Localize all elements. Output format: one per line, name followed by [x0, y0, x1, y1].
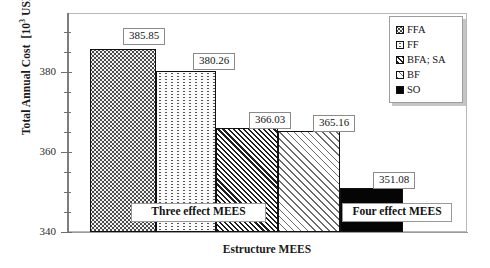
y-tick-minor-370: [64, 112, 71, 113]
legend-label-ffa: FFA: [407, 24, 425, 35]
legend-label-so: SO: [407, 84, 420, 95]
y-axis-title-text: Total Annual Cost: [20, 44, 32, 135]
x-axis-title: Estructure MEES: [67, 243, 467, 255]
y-axis-line: [67, 13, 69, 233]
y-tick-minor-365: [64, 132, 71, 133]
value-label-ff: 380.26: [193, 53, 235, 70]
y-axis-unit-exponent: 3: [18, 19, 27, 23]
y-tick-major-380: [61, 72, 72, 73]
legend-swatch-ff-icon: [396, 41, 404, 49]
legend-label-ff: FF: [407, 39, 419, 50]
y-tick-minor-385: [64, 52, 71, 53]
y-tick-label-340: 340: [14, 225, 56, 237]
legend: FFA FF BFA; SA BF SO: [389, 16, 463, 103]
chart-canvas: Total Annual Cost [103 USD] 380 360 340 …: [0, 0, 490, 268]
y-tick-minor-375: [64, 92, 71, 93]
y-tick-label-360: 360: [14, 145, 56, 157]
legend-item-bfa-sa[interactable]: BFA; SA: [396, 52, 458, 67]
y-tick-major-360: [61, 152, 72, 153]
bar-bf[interactable]: [278, 131, 340, 232]
annotation-three-effect-mees: Three effect MEES: [131, 203, 266, 222]
value-label-bfa-sa: 366.03: [249, 112, 291, 129]
y-tick-major-340: [61, 232, 72, 233]
y-tick-minor-390: [64, 32, 71, 33]
annotation-four-effect-mees: Four effect MEES: [342, 203, 452, 222]
legend-item-ff[interactable]: FF: [396, 37, 458, 52]
legend-item-so[interactable]: SO: [396, 82, 458, 97]
y-tick-minor-345: [64, 212, 71, 213]
y-axis-unit-prefix: [10: [20, 23, 32, 39]
y-tick-minor-350: [64, 192, 71, 193]
legend-label-bf: BF: [407, 69, 420, 80]
legend-item-bf[interactable]: BF: [396, 67, 458, 82]
y-axis-unit-suffix: USD]: [20, 0, 32, 19]
value-label-ffa: 385.85: [123, 28, 165, 45]
legend-swatch-bfa-sa-icon: [396, 56, 404, 64]
value-label-so: 351.08: [373, 172, 415, 189]
legend-swatch-so-icon: [396, 86, 404, 94]
y-tick-minor-355: [64, 172, 71, 173]
legend-swatch-bf-icon: [396, 71, 404, 79]
legend-swatch-ffa-icon: [396, 26, 404, 34]
legend-item-ffa[interactable]: FFA: [396, 22, 458, 37]
legend-label-bfa-sa: BFA; SA: [407, 54, 446, 65]
value-label-bf: 365.16: [313, 115, 355, 132]
y-tick-label-380: 380: [14, 65, 56, 77]
